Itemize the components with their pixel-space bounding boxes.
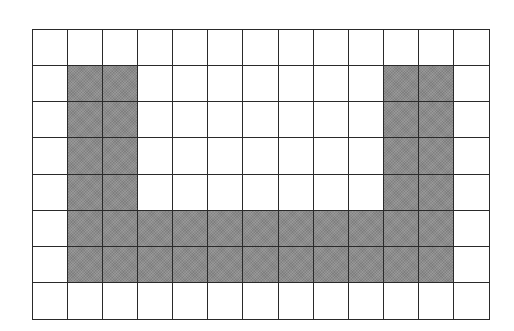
grid-cell-empty	[68, 283, 103, 319]
grid-cell-empty	[173, 102, 208, 138]
grid-cell-empty	[349, 283, 384, 319]
grid-cell-empty	[243, 30, 278, 66]
grid-cell-empty	[454, 247, 489, 283]
grid-cell-empty	[243, 102, 278, 138]
grid-cell-filled	[279, 211, 314, 247]
grid-cell-empty	[243, 283, 278, 319]
grid-cell-filled	[419, 211, 454, 247]
grid-cell-filled	[243, 247, 278, 283]
grid-cell-empty	[419, 283, 454, 319]
grid-cell-empty	[33, 102, 68, 138]
grid-cell-filled	[419, 138, 454, 174]
grid-cell-empty	[349, 175, 384, 211]
grid-cell-empty	[314, 102, 349, 138]
grid-cell-empty	[208, 138, 243, 174]
grid-cell-empty	[68, 30, 103, 66]
grid-cell-empty	[173, 138, 208, 174]
grid-cell-empty	[208, 66, 243, 102]
grid-cell-empty	[314, 175, 349, 211]
grid-cell-empty	[454, 283, 489, 319]
grid-cell-empty	[103, 30, 138, 66]
grid-cell-empty	[33, 66, 68, 102]
grid-cell-filled	[173, 247, 208, 283]
grid-cell-filled	[419, 247, 454, 283]
grid-cell-empty	[314, 283, 349, 319]
grid-cell-empty	[173, 175, 208, 211]
grid-cell-empty	[33, 138, 68, 174]
grid-cell-filled	[314, 247, 349, 283]
grid-cell-empty	[33, 247, 68, 283]
grid-cell-filled	[68, 102, 103, 138]
grid-cell-filled	[103, 102, 138, 138]
grid-cell-empty	[208, 30, 243, 66]
grid-cell-empty	[138, 102, 173, 138]
grid-cell-empty	[208, 175, 243, 211]
grid-cell-empty	[279, 283, 314, 319]
grid-cell-empty	[349, 30, 384, 66]
grid-cell-empty	[138, 138, 173, 174]
grid-cell-empty	[454, 138, 489, 174]
grid-cell-filled	[243, 211, 278, 247]
grid-cell-empty	[419, 30, 454, 66]
grid-cell-empty	[454, 175, 489, 211]
grid-cell-filled	[384, 175, 419, 211]
grid-cell-filled	[68, 66, 103, 102]
grid-cell-empty	[138, 283, 173, 319]
grid-cell-empty	[279, 138, 314, 174]
grid-cell-empty	[33, 175, 68, 211]
grid-cell-filled	[103, 138, 138, 174]
grid-cell-empty	[138, 30, 173, 66]
grid-cell-filled	[349, 247, 384, 283]
grid-cell-filled	[68, 247, 103, 283]
grid-cell-filled	[419, 102, 454, 138]
grid-cell-filled	[208, 211, 243, 247]
grid-cell-empty	[279, 66, 314, 102]
grid-cell-empty	[454, 102, 489, 138]
grid-cell-empty	[384, 30, 419, 66]
grid-cell-filled	[384, 211, 419, 247]
grid-cell-filled	[384, 66, 419, 102]
grid-cell-empty	[138, 66, 173, 102]
grid-cell-filled	[349, 211, 384, 247]
grid-cell-filled	[314, 211, 349, 247]
grid-cell-empty	[454, 211, 489, 247]
grid-cell-filled	[419, 66, 454, 102]
grid-cell-filled	[138, 247, 173, 283]
grid-cell-empty	[173, 283, 208, 319]
grid-cell-empty	[208, 102, 243, 138]
grid-cell-filled	[103, 247, 138, 283]
grid-cell-empty	[349, 66, 384, 102]
grid-cell-empty	[173, 30, 208, 66]
grid-cell-filled	[103, 175, 138, 211]
grid-cell-empty	[349, 102, 384, 138]
grid-cell-filled	[208, 247, 243, 283]
grid-cell-filled	[384, 138, 419, 174]
grid-cell-empty	[314, 66, 349, 102]
u-shape-grid-diagram	[32, 29, 490, 320]
grid-cell-filled	[279, 247, 314, 283]
grid-cell-filled	[68, 211, 103, 247]
grid-cell-filled	[138, 211, 173, 247]
grid-cell-filled	[384, 247, 419, 283]
grid-cell-empty	[243, 175, 278, 211]
grid-cell-empty	[243, 66, 278, 102]
grid-cell-filled	[68, 175, 103, 211]
grid-cell-empty	[384, 283, 419, 319]
grid-cell-empty	[279, 30, 314, 66]
grid-cell-filled	[419, 175, 454, 211]
grid-cell-empty	[33, 283, 68, 319]
grid-cell-empty	[173, 66, 208, 102]
grid-cell-empty	[243, 138, 278, 174]
grid-cell-empty	[138, 175, 173, 211]
grid-cell-empty	[33, 30, 68, 66]
grid-cell-empty	[349, 138, 384, 174]
grid-cell-empty	[208, 283, 243, 319]
grid-cell-empty	[454, 30, 489, 66]
grid-cell-filled	[68, 138, 103, 174]
grid-cell-empty	[279, 175, 314, 211]
grid-cell-filled	[103, 66, 138, 102]
grid-cell-empty	[279, 102, 314, 138]
grid-cell-filled	[103, 211, 138, 247]
grid-cell-empty	[103, 283, 138, 319]
grid-cell-filled	[384, 102, 419, 138]
